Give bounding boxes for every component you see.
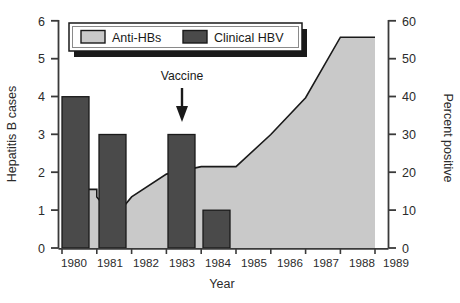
chart-figure: 6 5 4 3 2 1 0 Hepatitis B cases 60 50 40… <box>0 0 460 303</box>
right-tick-label-20: 20 <box>402 166 416 180</box>
left-axis: 6 5 4 3 2 1 0 Hepatitis B cases <box>5 15 59 256</box>
right-tick-label-0: 0 <box>402 242 409 256</box>
bar-1984 <box>203 210 230 248</box>
left-tick-label-5: 5 <box>38 52 45 66</box>
vaccine-arrow-down-icon <box>176 88 188 122</box>
x-tick-label-1988: 1988 <box>349 256 375 269</box>
left-tick-label-0: 0 <box>38 242 45 256</box>
right-axis-ticks <box>389 21 397 248</box>
right-tick-label-30: 30 <box>402 128 416 142</box>
legend-swatch-anti-hbs <box>81 31 105 44</box>
left-tick-label-1: 1 <box>38 204 45 218</box>
chart-legend: Anti-HBs Clinical HBV <box>69 23 307 57</box>
right-tick-label-60: 60 <box>402 15 416 29</box>
left-tick-label-3: 3 <box>38 128 45 142</box>
vaccine-annotation-label: Vaccine <box>161 69 204 83</box>
x-tick-label-1983: 1983 <box>169 256 195 269</box>
left-tick-label-2: 2 <box>38 166 45 180</box>
x-tick-label-1987: 1987 <box>313 256 339 269</box>
right-axis-title: Percent positive <box>441 94 455 183</box>
legend-label-anti-hbs: Anti-HBs <box>112 31 161 45</box>
x-tick-label-1986: 1986 <box>277 256 303 269</box>
right-axis: 60 50 40 30 20 10 0 Percent positive <box>389 15 456 256</box>
x-tick-label-1982: 1982 <box>133 256 159 269</box>
x-tick-label-1984: 1984 <box>205 256 231 269</box>
right-tick-label-40: 40 <box>402 90 416 104</box>
x-axis-title: Year <box>209 277 234 291</box>
right-tick-label-10: 10 <box>402 204 416 218</box>
x-tick-label-1980: 1980 <box>61 256 87 269</box>
bar-1980 <box>62 97 89 248</box>
x-tick-label-1981: 1981 <box>97 256 123 269</box>
bar-1981 <box>99 135 126 249</box>
legend-swatch-clinical-hbv <box>183 31 207 44</box>
left-axis-ticks <box>51 21 59 248</box>
right-tick-label-50: 50 <box>402 52 416 66</box>
x-tick-label-1989: 1989 <box>383 256 409 269</box>
left-axis-title: Hepatitis B cases <box>5 86 19 183</box>
left-tick-label-4: 4 <box>38 90 45 104</box>
legend-label-clinical-hbv: Clinical HBV <box>214 31 284 45</box>
hepatitis-b-chart: 6 5 4 3 2 1 0 Hepatitis B cases 60 50 40… <box>0 0 460 303</box>
x-tick-label-1985: 1985 <box>241 256 267 269</box>
x-axis: 1980 1981 1982 1983 1984 1985 1986 1987 … <box>59 249 409 291</box>
left-tick-label-6: 6 <box>38 15 45 29</box>
bar-1983 <box>168 135 195 249</box>
vaccine-annotation: Vaccine <box>161 69 204 122</box>
